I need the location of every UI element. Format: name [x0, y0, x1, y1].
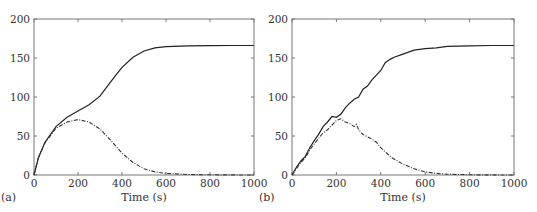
- y-tick-label: 0: [23, 169, 30, 181]
- x-tick-label: 800: [460, 177, 480, 189]
- y-tick-label: 100: [10, 91, 30, 103]
- plot-frame: [34, 19, 254, 175]
- panel-a: 02004006008001000050100150200Time (s)(a): [1, 13, 267, 204]
- x-axis-label: Time (s): [121, 191, 167, 204]
- x-tick-label: 800: [200, 177, 220, 189]
- panel-label: (b): [259, 191, 275, 204]
- y-tick-label: 0: [281, 169, 288, 181]
- panel-label: (a): [1, 191, 16, 204]
- y-tick-label: 150: [10, 52, 30, 64]
- series-line-solid: [292, 46, 514, 176]
- series-line-dash-dot: [292, 119, 514, 175]
- x-tick-label: 0: [31, 177, 38, 189]
- panel-b: 02004006008001000050100150200Time (s)(b): [259, 13, 527, 204]
- x-tick-label: 1000: [241, 177, 268, 189]
- x-tick-label: 1000: [501, 177, 528, 189]
- x-tick-label: 0: [289, 177, 296, 189]
- x-tick-label: 400: [371, 177, 391, 189]
- y-tick-label: 200: [10, 13, 30, 25]
- y-tick-label: 100: [268, 91, 288, 103]
- x-tick-label: 200: [326, 177, 346, 189]
- x-tick-label: 400: [112, 177, 132, 189]
- x-axis-label: Time (s): [380, 191, 426, 204]
- y-tick-label: 50: [17, 130, 30, 142]
- series-line-solid: [34, 46, 254, 176]
- y-tick-label: 150: [268, 52, 288, 64]
- y-tick-label: 50: [275, 130, 288, 142]
- figure: 02004006008001000050100150200Time (s)(a)…: [0, 0, 537, 212]
- x-tick-label: 200: [68, 177, 88, 189]
- plot-frame: [292, 19, 514, 175]
- x-tick-label: 600: [156, 177, 176, 189]
- series-line-dash-dot: [34, 120, 254, 175]
- x-tick-label: 600: [415, 177, 435, 189]
- y-tick-label: 200: [268, 13, 288, 25]
